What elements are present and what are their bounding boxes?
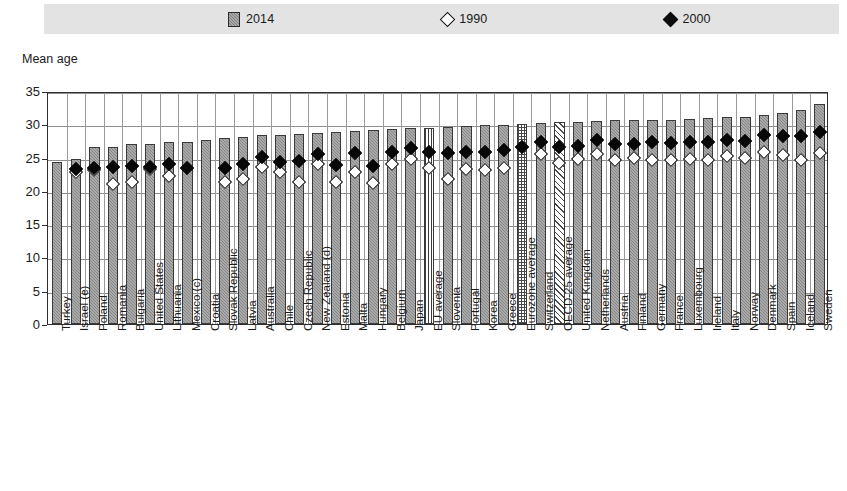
x-tick-label: Germany xyxy=(656,284,668,331)
x-tick-label: Lithuania xyxy=(172,284,184,331)
x-tick-label: Czech Republic xyxy=(303,250,315,331)
legend-label-1990: 1990 xyxy=(459,12,487,26)
y-tick-mark xyxy=(42,292,47,293)
y-tick-mark xyxy=(42,159,47,160)
x-tick-label: Iceland xyxy=(805,294,817,331)
y-tick-label: 0 xyxy=(0,318,40,331)
gridline-vertical xyxy=(755,93,756,324)
y-tick-mark xyxy=(42,192,47,193)
gridline-vertical xyxy=(364,93,365,324)
x-tick-label: Eurozone average xyxy=(526,237,538,331)
x-tick-label: Denmark xyxy=(767,284,779,331)
open-diamond-icon xyxy=(440,11,456,27)
y-tick-label: 35 xyxy=(0,85,40,98)
x-tick-label: Austria xyxy=(619,295,631,331)
chart-legend: 2014 1990 2000 xyxy=(44,4,839,34)
gridline-vertical xyxy=(736,93,737,324)
legend-item-2000: 2000 xyxy=(665,12,710,26)
x-tick-label: Netherlands xyxy=(600,269,612,331)
x-tick-label: OECD-25 average xyxy=(563,236,575,331)
gridline-vertical xyxy=(67,93,68,324)
y-tick-label: 5 xyxy=(0,285,40,298)
gridline-vertical xyxy=(253,93,254,324)
y-tick-label: 25 xyxy=(0,152,40,165)
x-tick-label: Hungary xyxy=(377,288,389,331)
x-tick-label: Italy xyxy=(730,310,742,331)
bar-swatch-icon xyxy=(228,12,240,27)
x-tick-label: Finland xyxy=(637,293,649,331)
gridline-vertical xyxy=(420,93,421,324)
y-tick-mark xyxy=(42,325,47,326)
gridline-vertical xyxy=(513,93,514,324)
legend-label-2000: 2000 xyxy=(682,12,710,26)
gridline-vertical xyxy=(717,93,718,324)
y-tick-mark xyxy=(42,92,47,93)
x-tick-label: Malta xyxy=(358,303,370,331)
x-tick-label: Ireland xyxy=(712,296,724,331)
x-tick-label: Chile xyxy=(284,305,296,331)
gridline-vertical xyxy=(792,93,793,324)
x-tick-label: Greece xyxy=(507,293,519,331)
x-tick-label: Korea xyxy=(488,300,500,331)
x-tick-label: Slovak Republic xyxy=(228,249,240,331)
gridline-vertical xyxy=(104,93,105,324)
y-tick-mark xyxy=(42,258,47,259)
x-tick-label: Switzerland xyxy=(544,272,556,331)
x-tick-label: France xyxy=(674,295,686,331)
gridline-vertical xyxy=(680,93,681,324)
x-tick-label: Japan xyxy=(414,300,426,331)
x-tick-label: Sweden xyxy=(823,289,835,331)
x-tick-label: Mexico (c) xyxy=(191,278,203,331)
x-tick-label: Luxembourg xyxy=(693,267,705,331)
x-tick-label: EU average xyxy=(433,270,445,331)
x-tick-label: Romania xyxy=(117,285,129,331)
y-tick-mark xyxy=(42,125,47,126)
y-tick-label: 20 xyxy=(0,185,40,198)
x-tick-label: Poland xyxy=(98,295,110,331)
x-tick-label: Turkey xyxy=(61,296,73,331)
gridline-vertical xyxy=(624,93,625,324)
x-tick-label: Australia xyxy=(265,286,277,331)
bar-spain xyxy=(777,113,787,324)
y-axis-title: Mean age xyxy=(22,52,78,66)
chart-page: 2014 1990 2000 Mean age 05101520253035 T… xyxy=(0,0,847,491)
gridline-vertical xyxy=(643,93,644,324)
legend-item-1990: 1990 xyxy=(442,12,487,26)
gridline-vertical xyxy=(810,93,811,324)
gridline-vertical xyxy=(215,93,216,324)
x-tick-label: United States xyxy=(154,262,166,331)
x-tick-label: Estonia xyxy=(340,293,352,331)
x-tick-label: Latvia xyxy=(247,300,259,331)
y-tick-label: 10 xyxy=(0,251,40,264)
filled-diamond-icon xyxy=(663,11,679,27)
gridline-vertical xyxy=(346,93,347,324)
x-tick-label: United Kingdom xyxy=(581,249,593,331)
gridline-horizontal xyxy=(48,93,827,94)
y-tick-label: 15 xyxy=(0,218,40,231)
x-tick-label: Bulgaria xyxy=(135,289,147,331)
x-tick-label: Portugal xyxy=(470,288,482,331)
x-tick-label: Israel (e) xyxy=(79,286,91,331)
gridline-vertical xyxy=(494,93,495,324)
x-tick-label: Croatia xyxy=(210,294,222,331)
y-tick-mark xyxy=(42,225,47,226)
x-tick-label: Norway xyxy=(749,292,761,331)
y-tick-label: 30 xyxy=(0,118,40,131)
legend-label-2014: 2014 xyxy=(246,12,274,26)
x-tick-label: Belgium xyxy=(396,289,408,331)
gridline-vertical xyxy=(290,93,291,324)
legend-item-2014: 2014 xyxy=(228,12,274,27)
x-tick-label: New Zealand (d) xyxy=(321,246,333,331)
x-tick-label: Slovenia xyxy=(451,287,463,331)
x-tick-label: Spain xyxy=(786,302,798,331)
